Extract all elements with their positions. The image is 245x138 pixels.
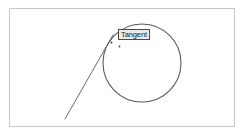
- diagram-frame: [9, 8, 235, 127]
- diagram-canvas: Tangent: [0, 0, 245, 138]
- tangent-label[interactable]: Tangent: [118, 29, 150, 40]
